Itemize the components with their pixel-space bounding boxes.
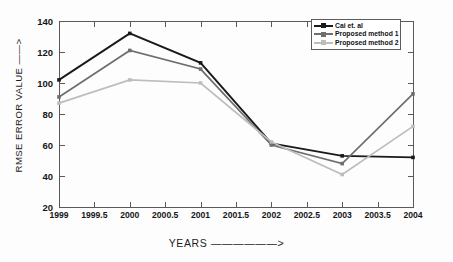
x-tick-label: 2001: [191, 210, 210, 220]
legend-label-2: Proposed method 2: [335, 39, 398, 47]
x-tick-label: 2003.5: [364, 210, 390, 220]
x-tick-label: 2002.5: [294, 210, 320, 220]
data-point-marker: [340, 173, 344, 177]
series-line-1: [59, 50, 413, 163]
x-tick-label: 2000: [120, 210, 139, 220]
x-tick-label: 2004: [403, 210, 422, 220]
x-tick-label: 1999: [49, 210, 68, 220]
data-point-marker: [128, 49, 132, 53]
y-tick-label: 100: [37, 78, 53, 89]
data-point-marker: [57, 78, 61, 82]
y-tick-label: 140: [37, 16, 53, 27]
legend-item-proposed-1[interactable]: Proposed method 1: [314, 30, 398, 38]
data-point-marker: [411, 92, 415, 96]
data-point-marker: [340, 162, 344, 166]
data-point-marker: [128, 78, 132, 82]
legend-label-1: Proposed method 1: [335, 30, 398, 38]
data-point-marker: [340, 154, 344, 158]
legend-swatch-icon-1: [314, 30, 333, 38]
data-point-marker: [199, 61, 203, 65]
x-axis-title: YEARS ——————>: [0, 237, 453, 249]
legend-item-cai[interactable]: Cai et. al: [314, 22, 398, 30]
data-point-marker: [199, 67, 203, 71]
y-tick-label: 80: [42, 109, 53, 120]
y-axis-tick-labels: 20406080100120140: [0, 21, 57, 208]
chart-legend: Cai et. al Proposed method 1 Proposed me…: [311, 19, 401, 50]
y-tick-label: 120: [37, 47, 53, 58]
x-tick-label: 2002: [262, 210, 281, 220]
legend-swatch-icon-0: [314, 22, 333, 30]
data-point-marker: [270, 140, 274, 144]
data-point-marker: [199, 81, 203, 85]
x-tick-label: 2001.5: [223, 210, 249, 220]
x-tick-label: 2003: [333, 210, 352, 220]
data-point-marker: [411, 156, 415, 160]
x-tick-label: 1999.5: [81, 210, 107, 220]
y-tick-label: 60: [42, 140, 53, 151]
chart-figure: RMSE ERROR VALUE ——> 20406080100120140 1…: [0, 0, 453, 262]
x-tick-label: 2000.5: [152, 210, 178, 220]
legend-item-proposed-2[interactable]: Proposed method 2: [314, 39, 398, 47]
data-point-marker: [57, 95, 61, 99]
data-point-marker: [270, 143, 274, 147]
data-point-marker: [411, 125, 415, 129]
series-line-0: [59, 33, 413, 157]
x-axis-tick-labels: 19991999.520002000.520012001.520022002.5…: [59, 210, 414, 224]
legend-swatch-icon-2: [314, 39, 333, 47]
data-point-marker: [57, 101, 61, 105]
series-line-2: [59, 80, 413, 175]
legend-label-0: Cai et. al: [335, 22, 363, 30]
y-tick-label: 40: [42, 171, 53, 182]
data-point-marker: [128, 32, 132, 36]
